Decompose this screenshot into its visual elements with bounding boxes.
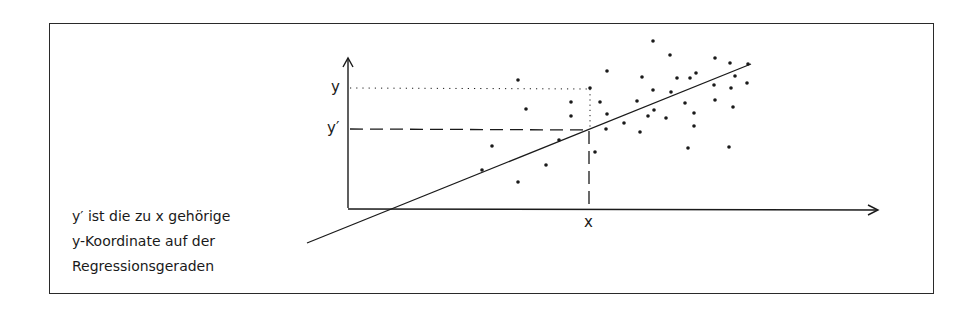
scatter-point [745, 81, 749, 85]
scatter-point [638, 130, 642, 134]
scatter-point [593, 150, 597, 154]
scatter-point [640, 75, 644, 79]
caption-line-2: y-Koordinate auf der [72, 229, 230, 254]
scatter-point [651, 88, 655, 92]
scatter-point [728, 61, 732, 65]
scatter-point [675, 76, 679, 80]
scatter-point [544, 163, 548, 167]
scatter-point [727, 145, 731, 149]
scatter-point [692, 124, 696, 128]
scatter-point [669, 90, 673, 94]
scatter-point [652, 108, 656, 112]
scatter-point [516, 78, 520, 82]
scatter-point [490, 144, 494, 148]
scatter-point [604, 127, 608, 131]
scatter-point [683, 101, 687, 105]
scatter-point [588, 86, 592, 90]
y-prime-label: y′ [327, 119, 339, 137]
scatter-point [664, 116, 668, 120]
caption-line-3: Regressionsgeraden [72, 254, 230, 279]
x-label: x [584, 213, 593, 231]
scatter-point [569, 100, 573, 104]
scatter-point [622, 121, 626, 125]
y-axis [343, 58, 353, 208]
y-label: y [331, 78, 340, 96]
scatter-point [557, 138, 561, 142]
scatter-point [688, 76, 692, 80]
scatter-point [480, 168, 484, 172]
x-axis [348, 205, 878, 215]
scatter-point [713, 98, 717, 102]
scatter-point [516, 180, 520, 184]
predicted-y-dashed-line [350, 129, 589, 130]
scatter-point [524, 107, 528, 111]
caption-line-1: y′ ist die zu x gehörige [72, 204, 230, 229]
scatter-point [651, 39, 655, 43]
scatter-point [605, 69, 609, 73]
scatter-points [480, 39, 750, 184]
scatter-point [646, 114, 650, 118]
scatter-point [635, 99, 639, 103]
observed-y-dotted-line [350, 88, 590, 89]
scatter-point [712, 83, 716, 87]
scatter-point [686, 146, 690, 150]
scatter-point [694, 71, 698, 75]
scatter-point [746, 62, 750, 66]
scatter-point [569, 114, 573, 118]
scatter-point [598, 100, 602, 104]
scatter-point [668, 53, 672, 57]
scatter-point [605, 112, 609, 116]
regression-line [307, 64, 751, 243]
scatter-point [729, 86, 733, 90]
scatter-point [733, 74, 737, 78]
caption: y′ ist die zu x gehörige y-Koordinate au… [72, 204, 230, 279]
scatter-point [731, 105, 735, 109]
scatter-point [692, 111, 696, 115]
scatter-point [713, 56, 717, 60]
